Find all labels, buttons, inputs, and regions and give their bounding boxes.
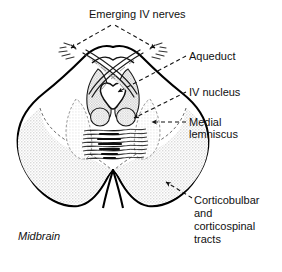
leader-iv-nucleus bbox=[134, 92, 186, 118]
label-midbrain: Midbrain bbox=[18, 230, 60, 242]
label-iv-nucleus: IV nucleus bbox=[189, 86, 241, 98]
iv-nucleus-left bbox=[91, 108, 110, 126]
label-tracts-line3: corticospinal bbox=[194, 220, 255, 232]
label-tracts-line2: and bbox=[194, 207, 212, 219]
emerging-iv-nerve-left bbox=[59, 43, 76, 59]
label-medial-lemniscus-line2: lemniscus bbox=[189, 128, 238, 140]
label-medial-lemniscus-line1: Medial bbox=[189, 116, 221, 128]
label-tracts-line4: tracts bbox=[194, 233, 221, 245]
midbrain-cross-section-figure: Emerging IV nerves Aqueduct IV nucleus M… bbox=[0, 0, 282, 272]
iv-nucleus-right bbox=[117, 108, 136, 126]
leader-emerging-iv-nerves bbox=[71, 24, 155, 48]
label-tracts-line1: Corticobulbar bbox=[194, 194, 260, 206]
title-emerging-iv-nerves: Emerging IV nerves bbox=[89, 8, 186, 20]
emerging-iv-nerve-right bbox=[150, 43, 167, 59]
label-aqueduct: Aqueduct bbox=[189, 50, 235, 62]
